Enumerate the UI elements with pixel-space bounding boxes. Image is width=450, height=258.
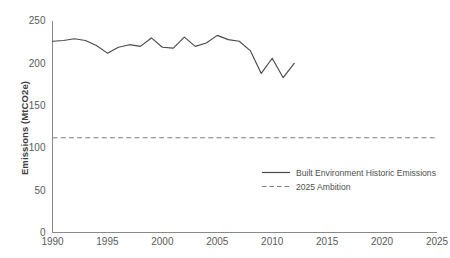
x-tick-label: 2020 (371, 236, 394, 247)
y-tick-label: 50 (34, 185, 46, 196)
x-tick-label: 2025 (426, 236, 449, 247)
y-tick-label: 250 (29, 15, 46, 26)
emissions-line-chart: Emissions (MtCO2e) 050100150200250 19901… (0, 0, 450, 258)
x-tick-label: 1990 (41, 236, 64, 247)
x-tick-label: 2010 (261, 236, 284, 247)
legend-label-historic: Built Environment Historic Emissions (296, 168, 436, 178)
chart-legend: Built Environment Historic Emissions 202… (262, 168, 436, 192)
historic-emissions-line (53, 35, 295, 77)
y-tick-label: 150 (29, 100, 46, 111)
x-tick-label: 2000 (151, 236, 174, 247)
y-axis-tick-labels: 050100150200250 (29, 15, 46, 238)
x-axis-tick-labels: 19901995200020052010201520202025 (41, 236, 448, 247)
x-tick-label: 1995 (96, 236, 119, 247)
chart-canvas: Emissions (MtCO2e) 050100150200250 19901… (0, 0, 450, 258)
x-tick-label: 2015 (316, 236, 339, 247)
x-tick-label: 2005 (206, 236, 229, 247)
y-axis-label: Emissions (MtCO2e) (19, 81, 30, 175)
legend-label-ambition: 2025 Ambition (296, 182, 351, 192)
y-tick-label: 200 (29, 58, 46, 69)
y-tick-label: 100 (29, 142, 46, 153)
